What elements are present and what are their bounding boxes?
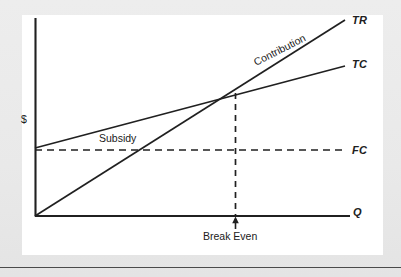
annotation-break-even: Break Even xyxy=(203,231,257,242)
series-label-tc: TC xyxy=(352,59,367,70)
total-cost-line xyxy=(35,66,345,148)
page-divider xyxy=(0,267,401,268)
y-axis-label: $ xyxy=(21,114,27,125)
x-axis-label: Q xyxy=(353,207,362,218)
break-even-arrow-icon xyxy=(232,217,239,230)
break-even-chart xyxy=(0,0,401,277)
total-revenue-line xyxy=(35,20,345,216)
series-label-fc: FC xyxy=(352,145,367,156)
annotation-subsidy: Subsidy xyxy=(99,133,136,144)
series-label-tr: TR xyxy=(352,15,367,26)
page-background: TR TC FC Q $ Subsidy Contribution Break … xyxy=(0,0,401,277)
